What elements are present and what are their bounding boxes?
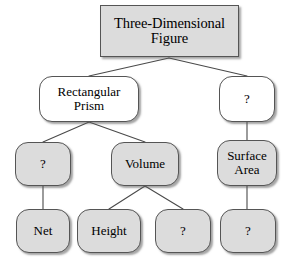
edge-rectangular-prism-to-question-left-level3 xyxy=(43,122,89,142)
node-rectangular-prism[interactable]: Rectangular Prism xyxy=(39,76,139,122)
node-question-volume-right[interactable]: ? xyxy=(155,209,211,253)
node-label: Height xyxy=(89,224,128,238)
node-question-left-level3[interactable]: ? xyxy=(15,142,71,186)
node-label: ? xyxy=(243,224,253,238)
node-label: ? xyxy=(242,92,252,106)
edge-root-to-rectangular-prism xyxy=(89,58,169,76)
node-label: Three-Dimensional Figure xyxy=(112,16,227,46)
node-question-right-level2[interactable]: ? xyxy=(219,76,275,122)
edge-root-to-question-right-level2 xyxy=(169,58,247,76)
node-label: Surface Area xyxy=(225,149,269,176)
edge-volume-to-question-volume-right xyxy=(145,186,183,209)
node-question-surface-area[interactable]: ? xyxy=(220,209,276,253)
node-net[interactable]: Net xyxy=(16,209,70,253)
concept-map-diagram: Three-Dimensional Figure Rectangular Pri… xyxy=(0,0,296,269)
node-root-three-dimensional-figure[interactable]: Three-Dimensional Figure xyxy=(100,5,239,57)
node-volume[interactable]: Volume xyxy=(111,142,179,186)
edge-volume-to-height xyxy=(109,186,145,209)
node-label: Volume xyxy=(123,157,167,171)
node-label: ? xyxy=(178,224,188,238)
node-label: ? xyxy=(38,157,48,171)
node-surface-area[interactable]: Surface Area xyxy=(217,140,277,186)
node-label: Rectangular Prism xyxy=(56,85,123,112)
edge-rectangular-prism-to-volume xyxy=(89,122,145,142)
node-label: Net xyxy=(32,224,55,238)
node-height[interactable]: Height xyxy=(77,209,141,253)
